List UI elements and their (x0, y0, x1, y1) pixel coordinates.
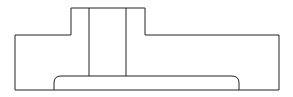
bottom-slot (54, 76, 239, 90)
section-drawing (0, 0, 293, 97)
part-outline (15, 8, 279, 90)
